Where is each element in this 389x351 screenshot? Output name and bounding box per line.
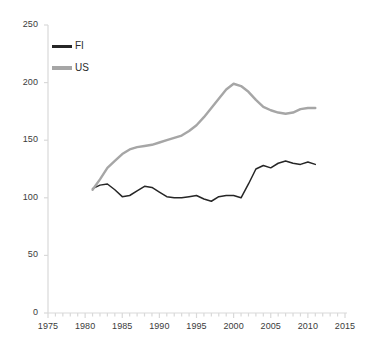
y-tick-label: 0	[10, 307, 38, 317]
y-tick-label: 250	[10, 19, 38, 29]
legend-label-us: US	[75, 63, 89, 73]
y-tick-label: 50	[10, 249, 38, 259]
x-tick-label: 1975	[31, 321, 65, 331]
y-tick-label: 200	[10, 77, 38, 87]
x-tick-label: 2005	[254, 321, 288, 331]
legend-item-us: US	[52, 60, 126, 76]
legend-item-fi: FI	[52, 38, 126, 54]
x-tick-label: 2010	[291, 321, 325, 331]
x-tick-label: 2015	[328, 321, 362, 331]
legend-label-fi: FI	[75, 41, 84, 51]
legend-swatch-fi	[52, 45, 72, 48]
y-tick-label: 150	[10, 134, 38, 144]
chart-legend: FI US	[52, 38, 126, 82]
x-tick-label: 1980	[68, 321, 102, 331]
y-tick-label: 100	[10, 192, 38, 202]
x-tick-label: 1990	[142, 321, 176, 331]
x-tick-label: 2000	[217, 321, 251, 331]
x-tick-label: 1995	[180, 321, 214, 331]
x-tick-label: 1985	[105, 321, 139, 331]
line-chart: FI US 050100150200250 197519801985199019…	[0, 0, 389, 351]
legend-swatch-us	[52, 66, 72, 70]
